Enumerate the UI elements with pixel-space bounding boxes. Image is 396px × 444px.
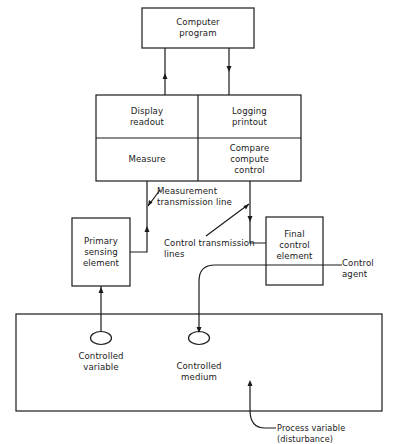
control-agent-label: Control agent bbox=[342, 258, 374, 280]
process-variable-label: Process variable (disturbance) bbox=[277, 423, 396, 444]
computer-program-label: Computer program bbox=[142, 17, 254, 39]
control-transmission-line bbox=[250, 181, 266, 243]
control-leader bbox=[206, 204, 249, 236]
controlled-medium-ellipse bbox=[189, 332, 210, 345]
control-agent-line bbox=[199, 265, 342, 331]
display-readout-label: Display readout bbox=[96, 106, 198, 128]
controlled-medium-label: Controlled medium bbox=[169, 361, 229, 383]
measurement-transmission-line-label: Measurement transmission line bbox=[157, 186, 232, 208]
final-control-element-label: Final control element bbox=[266, 229, 323, 262]
measure-label: Measure bbox=[96, 154, 198, 165]
controlled-variable-label: Controlled variable bbox=[71, 351, 131, 373]
compare-compute-control-label: Compare compute control bbox=[198, 143, 301, 176]
disturbance-arrow bbox=[250, 385, 276, 428]
control-transmission-lines-label: Control transmission lines bbox=[164, 238, 255, 260]
measurement-transmission-line bbox=[130, 181, 147, 252]
logging-printout-label: Logging printout bbox=[198, 106, 301, 128]
controlled-variable-ellipse bbox=[91, 332, 112, 345]
primary-sensing-element-label: Primary sensing element bbox=[72, 236, 130, 269]
